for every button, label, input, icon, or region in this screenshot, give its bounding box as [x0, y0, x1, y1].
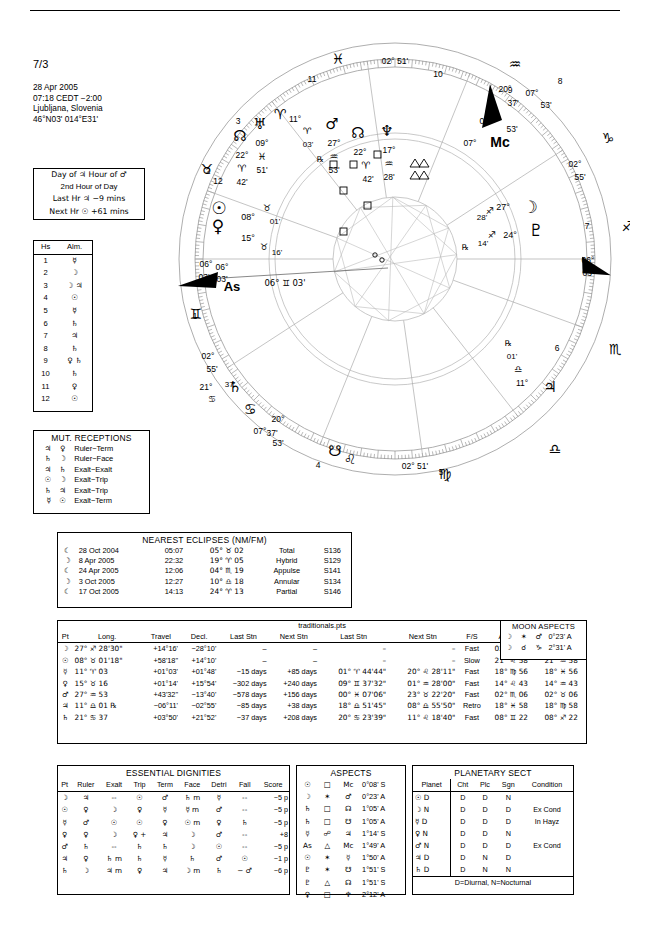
eclipse-time: 12:27 — [154, 577, 193, 587]
col-header-face: Face — [179, 779, 206, 792]
planet-minute: 53' — [328, 165, 339, 175]
ascendant-degree: 06° — [200, 259, 213, 269]
planet-degree: 22° — [236, 150, 249, 160]
dignity-exalt: ☽ — [100, 829, 127, 841]
sect-chart: D — [451, 864, 475, 877]
eclipse-time: 14:13 — [154, 587, 193, 597]
aspects-box: ASPECTS ☉□Mc0°08' S☽✶♂0°23' A♄□☊1°05' A♄… — [296, 765, 406, 895]
cusp-9-degree: 07° — [526, 88, 539, 98]
dignity-exalt: ☽ — [100, 804, 127, 816]
zodiac-glyph: ♎ — [549, 441, 562, 457]
dignity-triplicity: ♀ — [128, 865, 152, 877]
almuten-row: 1☿ — [34, 254, 92, 267]
zodiac-glyph: ♏ — [609, 341, 622, 357]
dignity-score: +8 — [257, 829, 289, 841]
almuten-house: 7 — [34, 330, 57, 343]
dignity-row: ☉♀☽♀☿☿ m♂--−5 p — [58, 804, 289, 816]
reception-planet-b: ♄ — [53, 465, 72, 475]
almuten-ruler: ☉ — [57, 292, 92, 305]
aspect-body-b: ♆ — [337, 889, 360, 901]
dignity-ruler: ♂ — [71, 817, 100, 829]
planet-last-station-days: −85 days — [218, 700, 268, 711]
eclipse-date: 24 Apr 2005 — [77, 566, 155, 576]
venus-glyph: ♀ — [212, 216, 224, 236]
reception-kind: Exalt−Term — [72, 496, 149, 506]
planet-fast-slow: Slow — [457, 655, 486, 666]
reception-kind: Exalt−Trip — [72, 486, 149, 496]
aspect-body-a: ♄ — [297, 816, 318, 828]
dignity-exalt: -- — [100, 792, 127, 805]
dignity-term: ☿ — [151, 853, 178, 865]
planet-contra-antiscia: 18° ♓ 56 — [536, 666, 586, 677]
aspect-body-a: ☿ — [297, 828, 318, 840]
house-number-10: 10 — [433, 69, 443, 79]
planet-glyph: ♆ — [380, 122, 393, 140]
eclipse-row: ☾28 Oct 200405:0705° ♉ 02TotalS136 — [58, 546, 351, 556]
planet-last-station-days: – — [218, 655, 268, 666]
almuten-row: 8♄ — [34, 343, 92, 356]
eclipse-row: ☽8 Apr 200522:3219° ♈ 05HybridS129 — [58, 556, 351, 566]
cusp-4-degree: 02° 51' — [402, 461, 429, 471]
planet-fast-slow: Fast — [457, 678, 486, 689]
dignity-face: ☽ m — [179, 865, 206, 877]
sect-placement: D — [474, 792, 495, 805]
col-header-detri: Detri — [206, 779, 232, 792]
planet-last-station-pos: – — [319, 655, 388, 666]
dignity-planet: ☽ — [58, 792, 71, 805]
chart-place: Ljubljana, Slovenia — [33, 103, 103, 114]
sect-sign: D — [496, 804, 521, 816]
planet-last-station-days: −15 days — [218, 666, 268, 677]
dignity-score: −5 p — [257, 804, 289, 816]
planet-travel: +01°14' — [142, 678, 180, 689]
planet-row: ♂27° ♒ 53+43'32"−13°40'−578 days+156 day… — [58, 689, 586, 700]
eclipse-position: 19° ♈ 05 — [194, 556, 260, 566]
saturn-degree: 21° — [200, 382, 213, 392]
dignity-triplicity: ♀ + — [128, 829, 152, 841]
house-number-7: 7 — [585, 221, 590, 231]
dignity-row: ☽♃--☉♂♄ m☿--−5 p — [58, 792, 289, 805]
planet-travel: +58'18" — [142, 655, 180, 666]
almuten-house: 10 — [34, 368, 57, 381]
mutual-receptions-table: ♃♀Ruler−Term♄☽Ruler−Face♃♄Exalt−Exalt☉☽E… — [34, 444, 149, 506]
aspect-body-a: ☉ — [297, 779, 318, 791]
aspect-glyph: □ — [318, 889, 337, 901]
almuten-ruler: ☿ — [57, 254, 92, 267]
dignity-term: ☿ — [151, 804, 178, 816]
moon-aspects-title: MOON ASPECTS — [501, 621, 586, 631]
col-header-alm: Alm. — [57, 241, 92, 254]
planet-row: ♃11° ♎ 01 ℞−06°11'−02°55'−85 days+38 day… — [58, 700, 586, 711]
planet-antiscia: 08° ♊ 22 — [486, 712, 536, 723]
dignity-score: −5 p — [257, 817, 289, 829]
dignity-detriment: ♂ — [206, 804, 232, 816]
planet-declination: −02°55' — [180, 700, 218, 711]
dignity-row: ♀♀☽♀ +♃☽♂--+8 — [58, 829, 289, 841]
dignity-score: −6 p — [257, 865, 289, 877]
node-sign: ♈ — [362, 160, 371, 171]
aspect-row: ♀□♆2°12' A — [297, 889, 405, 901]
planet-last-station-pos: 00° ♓ 07'06" — [319, 689, 388, 700]
pluto-degree: 24° — [503, 230, 517, 240]
aspect-glyph: △ — [318, 840, 337, 852]
dignity-detriment: ♄ — [206, 865, 232, 877]
planet-degree: 09° — [256, 138, 269, 148]
moon-aspects-table: ☽✶♂0°23' A☽☌♑2°31' A — [501, 631, 586, 653]
planetary-sect-title: PLANETARY SECT — [413, 766, 573, 779]
reception-row: ♃♄Exalt−Exalt — [34, 465, 149, 475]
moon-aspect-orb: 2°31' A — [547, 642, 586, 653]
sect-row: ♃ DDND — [413, 852, 573, 864]
dignity-ruler: ♀ — [71, 853, 100, 865]
house-number-11: 11 — [308, 74, 317, 84]
aspect-orb: 0°23' A — [360, 791, 405, 803]
sun-sign: ♉ — [263, 203, 271, 213]
eclipse-saros: S134 — [314, 577, 351, 587]
dignity-detriment: ♀ — [206, 817, 232, 829]
almuten-row: 5☿ — [34, 305, 92, 318]
eclipse-phase-icon: ☾ — [58, 566, 77, 576]
almuten-house: 11 — [34, 381, 57, 394]
cusp-minute-37b: 37' — [266, 428, 277, 438]
dignity-planet: ♃ — [58, 853, 71, 865]
col-header-pt: Pt — [58, 779, 71, 792]
dignity-detriment: ☿ — [206, 792, 232, 805]
reception-planet-b: ♃ — [53, 486, 72, 496]
planet-fast-slow: Retro — [457, 700, 486, 711]
